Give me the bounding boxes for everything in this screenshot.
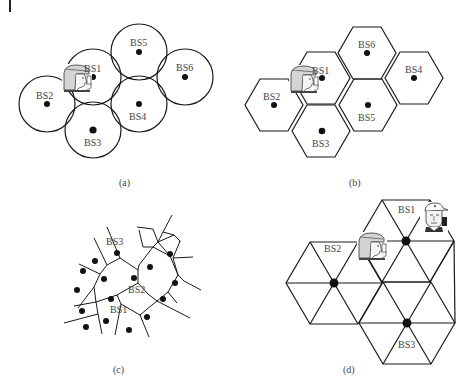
base-station-dot-bs1 bbox=[108, 296, 114, 302]
label-bs4: BS4 bbox=[405, 64, 422, 75]
base-station-dot bbox=[167, 251, 173, 257]
base-station-dot bbox=[92, 258, 98, 264]
base-station-dot bbox=[83, 324, 89, 330]
label-bs3: BS3 bbox=[398, 339, 415, 350]
label-bs5: BS5 bbox=[130, 37, 147, 48]
label-bs5: BS5 bbox=[358, 112, 375, 123]
base-station-dot-bs3 bbox=[403, 319, 412, 328]
base-station-dot-bs2 bbox=[44, 101, 50, 107]
page-edge-mark bbox=[9, 0, 11, 12]
label-bs4: BS4 bbox=[129, 111, 146, 122]
base-station-dot-bs2 bbox=[330, 279, 339, 288]
figure-canvas: BS1 BS2 BS3 BS4 BS5 BS6 (a) bbox=[0, 0, 472, 388]
label-bs6: BS6 bbox=[358, 39, 375, 50]
base-station-dot-bs2 bbox=[271, 102, 277, 108]
base-station-dot-bs2 bbox=[131, 275, 137, 281]
base-station-dot-bs1 bbox=[402, 237, 411, 246]
caption-b: (b) bbox=[349, 177, 361, 189]
base-station-dot-bs4 bbox=[136, 101, 142, 107]
label-bs1: BS1 bbox=[398, 204, 415, 215]
caption-a: (a) bbox=[119, 177, 130, 189]
base-station-dot bbox=[80, 268, 86, 274]
base-station-dot-bs3 bbox=[319, 128, 326, 135]
base-station-dot-bs6 bbox=[364, 50, 370, 56]
base-station-dot bbox=[74, 287, 80, 293]
panel-c-labels: BS3 BS2 BS1 bbox=[106, 236, 145, 315]
label-bs2: BS2 bbox=[128, 284, 145, 295]
base-station-dot-bs6 bbox=[182, 74, 188, 80]
base-station-dot bbox=[126, 327, 132, 333]
caption-c: (c) bbox=[113, 364, 124, 376]
cellular-models-figure: BS1 BS2 BS3 BS4 BS5 BS6 (a) bbox=[0, 0, 472, 388]
base-station-dot bbox=[172, 280, 178, 286]
label-bs3: BS3 bbox=[84, 137, 101, 148]
label-bs2: BS2 bbox=[324, 243, 341, 254]
base-station-dot-bs5 bbox=[365, 102, 371, 108]
base-station-dot-bs5 bbox=[136, 49, 142, 55]
user-with-phone-icon bbox=[357, 232, 387, 260]
base-station-dot bbox=[147, 264, 153, 270]
base-station-dot bbox=[144, 314, 150, 320]
label-bs1: BS1 bbox=[84, 63, 101, 74]
user-with-cap-icon bbox=[420, 202, 448, 232]
label-bs3: BS3 bbox=[106, 236, 123, 247]
label-bs1: BS1 bbox=[312, 65, 329, 76]
label-bs1: BS1 bbox=[110, 304, 127, 315]
base-station-dot bbox=[101, 276, 107, 282]
base-station-dot bbox=[160, 296, 166, 302]
base-station-dot-bs3 bbox=[89, 126, 96, 133]
label-bs6: BS6 bbox=[176, 62, 193, 73]
caption-d: (d) bbox=[343, 364, 355, 376]
label-bs2: BS2 bbox=[263, 91, 280, 102]
base-station-dot bbox=[103, 318, 109, 324]
base-station-dot-bs3 bbox=[114, 250, 120, 256]
label-bs2: BS2 bbox=[36, 90, 53, 101]
label-bs3: BS3 bbox=[312, 138, 329, 149]
base-station-dot bbox=[79, 308, 85, 314]
base-station-dot-bs4 bbox=[411, 75, 417, 81]
